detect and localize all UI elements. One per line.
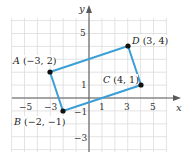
point-a-label: A (−3, 2) [12, 55, 56, 66]
x-tick-label: 1 [99, 102, 105, 112]
point-b [60, 108, 65, 113]
point-d [125, 43, 130, 48]
x-tick-label: 5 [150, 102, 156, 112]
y-tick-label: 1 [81, 80, 87, 90]
point-c-label: C (4, 1) [103, 74, 139, 85]
y-tick-label: 5 [80, 28, 86, 38]
coordinate-plane-chart: x y −5 −3 1 3 5 5 1 −1 −3 A (−3, 2) B (−… [0, 0, 196, 152]
y-axis-label: y [78, 3, 85, 14]
y-tick-label: −3 [74, 133, 88, 143]
point-c [138, 82, 143, 87]
x-axis-label: x [176, 102, 182, 113]
x-tick-label: −5 [19, 102, 33, 112]
y-tick-label: −1 [74, 107, 87, 117]
point-a [47, 69, 52, 74]
x-axis-arrow-icon [173, 95, 181, 101]
point-b-label: B (−2, −1) [13, 116, 65, 127]
y-axis-arrow-icon [86, 5, 92, 13]
x-tick-label: 3 [124, 102, 130, 112]
x-tick-label: −3 [44, 102, 58, 112]
point-d-label: D (3, 4) [131, 35, 168, 46]
